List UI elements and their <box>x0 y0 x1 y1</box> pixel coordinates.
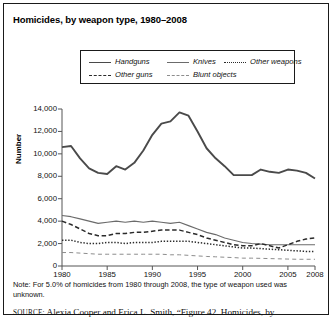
series-line-blunt-objects <box>62 253 315 260</box>
chart-canvas <box>4 4 330 316</box>
series-line-handguns <box>62 112 315 178</box>
chart-source: source: Alexia Cooper and Erica L. Smith… <box>13 307 325 319</box>
axis-lines <box>62 109 315 266</box>
figure-container: Homicides, by weapon type, 1980–2008 Han… <box>3 3 329 315</box>
series-line-knives <box>62 216 315 245</box>
plot-area: Number 14,00012,00010,0008,0006,0004,000… <box>4 4 330 316</box>
source-label: source: <box>13 309 45 317</box>
chart-note: Note: For 5.0% of homicides from 1980 th… <box>13 280 318 299</box>
series-line-other-weapons <box>62 240 315 251</box>
source-citation: Alexia Cooper and Erica L. Smith, “Figur… <box>47 307 275 317</box>
